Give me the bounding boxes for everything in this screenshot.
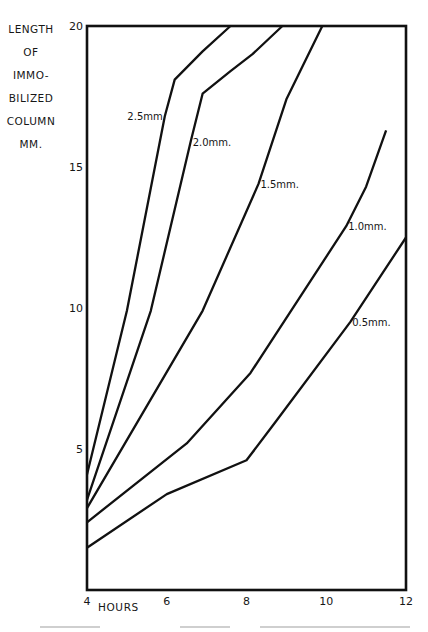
line-chart: 2.5mm2.0mm.1.5mm.1.0mm.0.5mm. 4681012510… — [0, 0, 428, 632]
y-tick-label: 15 — [69, 161, 83, 174]
x-tick-label: 8 — [243, 595, 250, 608]
caption-fragment — [40, 626, 100, 628]
series-label: 1.5mm. — [260, 179, 299, 190]
series-line — [87, 26, 282, 500]
series-label: 1.0mm. — [348, 221, 387, 232]
x-tick-label: 10 — [319, 595, 333, 608]
y-tick-label: 20 — [69, 20, 83, 33]
x-tick-label: 4 — [84, 595, 91, 608]
series-label: 2.5mm — [127, 111, 162, 122]
series-line — [87, 238, 406, 548]
series-label: 0.5mm. — [352, 317, 391, 328]
series-line — [87, 26, 322, 508]
x-tick-label: 12 — [399, 595, 413, 608]
series-label: 2.0mm. — [193, 137, 232, 148]
series-line — [87, 26, 231, 474]
caption-cutoff — [0, 622, 428, 632]
x-axis-title: HOURS — [98, 601, 139, 613]
series-labels: 2.5mm2.0mm.1.5mm.1.0mm.0.5mm. — [127, 111, 390, 328]
x-tick-label: 6 — [163, 595, 170, 608]
caption-fragment — [260, 626, 410, 628]
caption-fragment — [180, 626, 230, 628]
y-tick-label: 10 — [69, 302, 83, 315]
series-lines — [87, 26, 406, 548]
axis-ticks: 46810125101520 — [69, 20, 413, 608]
y-tick-label: 5 — [76, 443, 83, 456]
